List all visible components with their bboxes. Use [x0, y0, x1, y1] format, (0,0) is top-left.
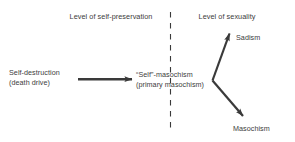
node-self-destruction: Self-destruction (death drive): [9, 68, 60, 89]
node-self-destruction-line1: Self-destruction: [9, 68, 60, 78]
node-masochism: Masochism: [233, 124, 270, 134]
arrow-branch-to-sadism: [213, 34, 230, 81]
header-level-of-sexuality: Level of sexuality: [199, 12, 256, 22]
node-self-masochism-line1: “Self”-masochism: [136, 70, 204, 80]
arrow-branch-to-masochism: [213, 81, 244, 117]
node-sadism: Sadism: [236, 33, 260, 43]
diagram-canvas: Level of self-preservation Level of sexu…: [0, 0, 295, 142]
node-self-masochism: “Self”-masochism (primary masochism): [136, 70, 204, 91]
node-self-masochism-line2: (primary masochism): [136, 80, 204, 90]
node-self-destruction-line2: (death drive): [9, 78, 60, 88]
header-level-of-self-preservation: Level of self-preservation: [70, 12, 153, 22]
